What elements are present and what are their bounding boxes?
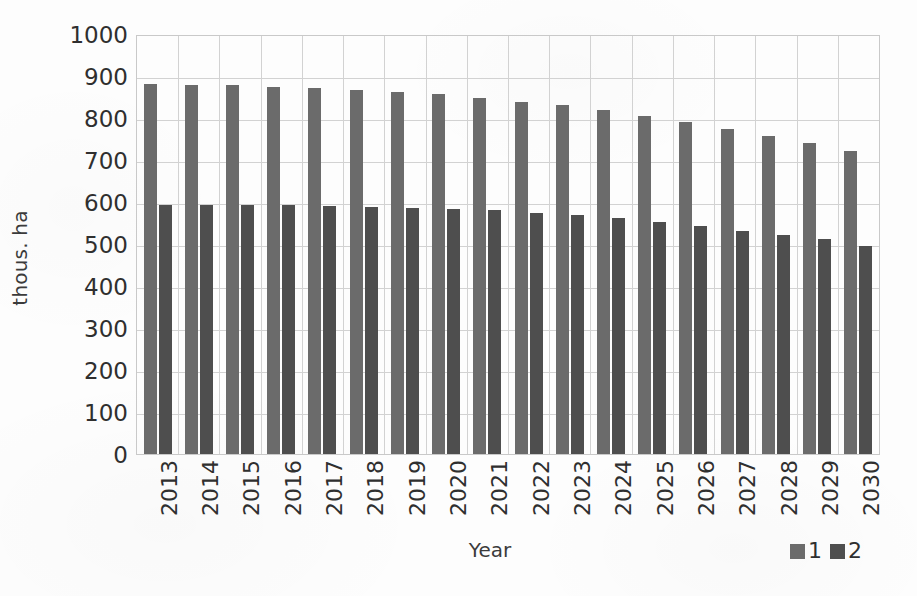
bar-series-1-2027 (721, 129, 734, 455)
x-axis-title: Year (400, 538, 580, 562)
bar-series-2-2021 (488, 210, 501, 454)
x-tick-cell: 2016 (260, 456, 301, 534)
x-tick-cell: 2030 (839, 456, 880, 534)
bar-group (426, 36, 467, 454)
y-tick-label: 300 (42, 316, 128, 342)
bar-series-2-2019 (406, 208, 419, 454)
bar-series-2-2015 (241, 205, 254, 454)
x-tick-cell: 2027 (715, 456, 756, 534)
bar-group (508, 36, 549, 454)
bar-series-2-2013 (159, 205, 172, 454)
legend-label: 1 (808, 540, 822, 562)
bar-series-1-2025 (638, 116, 651, 454)
x-tick-cell: 2019 (384, 456, 425, 534)
bar-series-1-2017 (308, 88, 321, 454)
bar-series-1-2016 (267, 87, 280, 455)
y-tick-label: 700 (42, 148, 128, 174)
y-tick-label: 900 (42, 64, 128, 90)
x-tick-cell: 2014 (177, 456, 218, 534)
bar-group (714, 36, 755, 454)
bar-group (219, 36, 260, 454)
bar-group (590, 36, 631, 454)
y-tick-label: 500 (42, 232, 128, 258)
bar-series-1-2014 (185, 85, 198, 454)
x-axis-tick-labels: 2013201420152016201720182019202020212022… (136, 456, 880, 534)
chart-page: thous. ha 010020030040050060070080090010… (0, 0, 917, 596)
x-tick-cell: 2029 (797, 456, 838, 534)
x-tick-cell: 2018 (343, 456, 384, 534)
y-tick-label: 800 (42, 106, 128, 132)
bar-series-2-2018 (365, 207, 378, 454)
bar-series-2-2026 (694, 226, 707, 454)
bar-group (549, 36, 590, 454)
bar-series-1-2030 (844, 151, 857, 454)
bar-group (343, 36, 384, 454)
x-tick-cell: 2025 (632, 456, 673, 534)
bar-group (467, 36, 508, 454)
chart-legend: 12 (790, 540, 862, 562)
bar-series-container (137, 36, 879, 454)
bar-series-1-2028 (762, 136, 775, 454)
bar-group (673, 36, 714, 454)
x-tick-cell: 2015 (219, 456, 260, 534)
bar-series-1-2023 (556, 105, 569, 454)
bar-group (261, 36, 302, 454)
plot-area (136, 35, 880, 455)
bar-group (302, 36, 343, 454)
y-tick-label: 100 (42, 400, 128, 426)
x-tick-cell: 2022 (508, 456, 549, 534)
bar-series-2-2025 (653, 222, 666, 454)
x-tick-cell: 2024 (591, 456, 632, 534)
x-tick-cell: 2017 (301, 456, 342, 534)
y-tick-label: 200 (42, 358, 128, 384)
bar-series-1-2020 (432, 94, 445, 454)
bar-series-1-2015 (226, 85, 239, 454)
bar-group (797, 36, 838, 454)
bar-series-1-2013 (144, 84, 157, 454)
y-tick-label: 0 (42, 442, 128, 468)
bar-series-2-2016 (282, 205, 295, 454)
legend-swatch-icon (790, 544, 805, 559)
y-axis-tick-labels: 01002003004005006007008009001000 (42, 35, 128, 455)
y-axis-title: thous. ha (8, 168, 32, 348)
bar-series-2-2028 (777, 235, 790, 454)
bar-series-1-2024 (597, 110, 610, 454)
bar-series-2-2017 (323, 206, 336, 454)
bar-series-1-2021 (473, 98, 486, 454)
y-tick-label: 400 (42, 274, 128, 300)
bar-series-2-2023 (571, 215, 584, 454)
bar-series-2-2024 (612, 218, 625, 454)
bar-group (755, 36, 796, 454)
x-tick-cell: 2028 (756, 456, 797, 534)
legend-label: 2 (848, 540, 862, 562)
x-tick-cell: 2020 (425, 456, 466, 534)
x-tick-cell: 2023 (549, 456, 590, 534)
bar-group (137, 36, 178, 454)
bar-series-1-2029 (803, 143, 816, 454)
x-tick-label: 2030 (859, 460, 884, 516)
bar-series-2-2020 (447, 209, 460, 454)
bar-series-2-2029 (818, 239, 831, 454)
bar-group (178, 36, 219, 454)
x-tick-cell: 2021 (467, 456, 508, 534)
bar-series-1-2019 (391, 92, 404, 454)
x-tick-cell: 2013 (136, 456, 177, 534)
y-tick-label: 1000 (42, 22, 128, 48)
y-tick-label: 600 (42, 190, 128, 216)
x-tick-cell: 2026 (673, 456, 714, 534)
bar-series-2-2022 (530, 213, 543, 455)
bar-series-1-2022 (515, 102, 528, 454)
bar-series-2-2014 (200, 205, 213, 454)
bar-series-1-2026 (679, 122, 692, 454)
bar-group (632, 36, 673, 454)
bar-group (384, 36, 425, 454)
bar-series-2-2027 (736, 231, 749, 454)
legend-item-2[interactable]: 2 (830, 540, 862, 562)
bar-series-1-2018 (350, 90, 363, 454)
bar-group (838, 36, 879, 454)
legend-swatch-icon (830, 544, 845, 559)
legend-item-1[interactable]: 1 (790, 540, 822, 562)
bar-series-2-2030 (859, 246, 872, 454)
